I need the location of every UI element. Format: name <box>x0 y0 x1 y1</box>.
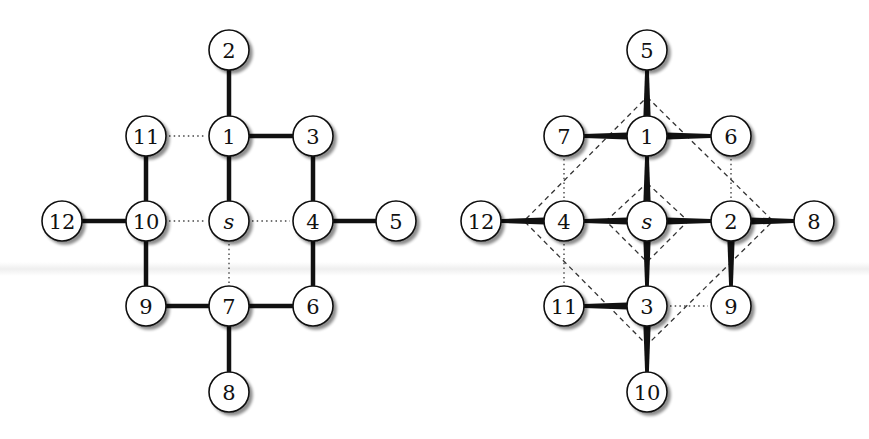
node-left-12: 12 <box>42 201 82 241</box>
node-label: 10 <box>133 210 160 234</box>
edge-3-11 <box>584 302 627 309</box>
node-label: 11 <box>551 295 578 319</box>
node-label: 1 <box>640 125 653 149</box>
node-left-2: 2 <box>209 30 249 70</box>
node-label: 3 <box>640 295 653 319</box>
node-label: 9 <box>139 295 152 319</box>
edge-4-12 <box>501 217 544 224</box>
node-left-4: 4 <box>293 201 333 241</box>
edge-s-4 <box>584 217 627 224</box>
node-right-1: 1 <box>627 116 667 156</box>
node-left-s: s <box>209 201 249 241</box>
node-left-7: 7 <box>209 286 249 326</box>
node-left-6: 6 <box>293 286 333 326</box>
node-right-8: 8 <box>794 201 834 241</box>
node-left-9: 9 <box>126 286 166 326</box>
node-label: 8 <box>807 210 820 234</box>
node-label: 2 <box>724 210 737 234</box>
node-left-3: 3 <box>293 116 333 156</box>
node-label: 10 <box>634 381 661 405</box>
node-right-11: 11 <box>544 286 584 326</box>
edge-2-8 <box>751 217 794 224</box>
node-left-10: 10 <box>126 201 166 241</box>
node-label: 1 <box>222 125 235 149</box>
node-right-6: 6 <box>711 116 751 156</box>
panel-left-graph: s123456789101112 <box>42 30 416 412</box>
node-right-5: 5 <box>627 30 667 70</box>
node-label: 3 <box>306 125 319 149</box>
node-right-4: 4 <box>544 201 584 241</box>
node-label: 6 <box>306 295 319 319</box>
node-right-10: 10 <box>627 372 667 412</box>
node-label: 7 <box>557 125 570 149</box>
node-left-5: 5 <box>376 201 416 241</box>
node-label: s <box>642 210 653 234</box>
node-label: 5 <box>640 39 653 63</box>
edge-s-1 <box>643 156 650 201</box>
node-label: s <box>224 210 235 234</box>
edge-1-7 <box>584 132 627 139</box>
node-label: 11 <box>133 125 160 149</box>
node-label: 12 <box>49 210 76 234</box>
edge-1-6 <box>667 132 711 139</box>
node-label: 4 <box>306 210 319 234</box>
node-label: 4 <box>557 210 570 234</box>
node-right-7: 7 <box>544 116 584 156</box>
node-label: 12 <box>468 210 495 234</box>
node-right-s: s <box>627 201 667 241</box>
panel-right-graph: s123456789101112 <box>461 30 834 412</box>
edge-1-5 <box>643 70 650 116</box>
edge-s-3 <box>643 241 650 286</box>
node-right-12: 12 <box>461 201 501 241</box>
figure-canvas: s123456789101112 s123456789101112 <box>0 0 869 439</box>
node-right-9: 9 <box>711 286 751 326</box>
node-left-1: 1 <box>209 116 249 156</box>
node-label: 8 <box>222 381 235 405</box>
node-left-8: 8 <box>209 372 249 412</box>
node-right-3: 3 <box>627 286 667 326</box>
node-label: 6 <box>724 125 737 149</box>
node-label: 5 <box>389 210 402 234</box>
edge-s-2 <box>667 217 711 224</box>
node-label: 7 <box>222 295 235 319</box>
node-right-2: 2 <box>711 201 751 241</box>
graph-diagram: s123456789101112 s123456789101112 <box>0 0 869 439</box>
node-label: 9 <box>724 295 737 319</box>
edge-3-10 <box>643 326 650 372</box>
node-left-11: 11 <box>126 116 166 156</box>
node-label: 2 <box>222 39 235 63</box>
edge-2-9 <box>727 241 734 286</box>
